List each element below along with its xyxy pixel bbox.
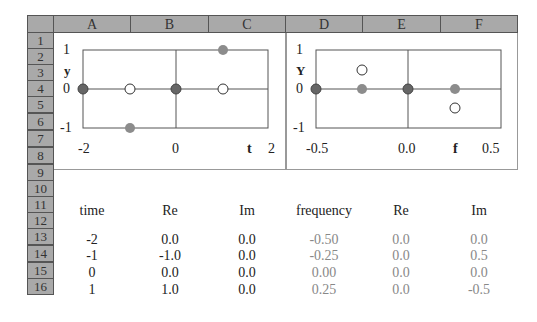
- column-header-d[interactable]: D: [285, 15, 363, 33]
- y-axis-label: Y: [296, 63, 305, 79]
- row-header-7[interactable]: 7: [27, 130, 54, 147]
- cell-f15[interactable]: 0.0: [440, 265, 518, 281]
- cell-b16[interactable]: 1.0: [131, 282, 209, 298]
- column-header-f[interactable]: F: [440, 15, 518, 33]
- cell-d13[interactable]: -0.50: [285, 232, 363, 248]
- cell-c13[interactable]: 0.0: [208, 232, 286, 248]
- column-header-c[interactable]: C: [208, 15, 286, 33]
- row-header-1[interactable]: 1: [27, 32, 54, 49]
- cell-c15[interactable]: 0.0: [208, 265, 286, 281]
- row-header-15[interactable]: 15: [27, 262, 54, 279]
- cell-f13[interactable]: 0.0: [440, 232, 518, 248]
- row-header-13[interactable]: 13: [27, 228, 54, 245]
- header-re[interactable]: Re: [131, 203, 209, 219]
- x-tick-max: 0.5: [482, 141, 500, 157]
- cell-d16[interactable]: 0.25: [285, 282, 363, 298]
- x-axis-label: t: [247, 141, 252, 157]
- y-axis-label: y: [64, 63, 71, 79]
- x-tick-min: -2: [78, 141, 90, 157]
- cell-c16[interactable]: 0.0: [208, 282, 286, 298]
- header-im[interactable]: Im: [440, 203, 518, 219]
- column-header-b[interactable]: B: [130, 15, 209, 33]
- x-tick-max: 2: [268, 141, 275, 157]
- y-tick-0: 0: [63, 81, 70, 97]
- time-domain-chart[interactable]: 1 y 0 -1 -2 0 t 2: [54, 33, 286, 170]
- y-tick-1: 1: [296, 42, 303, 58]
- row-header-6[interactable]: 6: [27, 113, 54, 130]
- row-header-14[interactable]: 14: [27, 245, 54, 262]
- row-header-16[interactable]: 16: [27, 278, 54, 295]
- cell-a14[interactable]: -1: [53, 248, 131, 264]
- row-header-12[interactable]: 12: [27, 212, 54, 229]
- x-tick-mid: 0: [172, 141, 179, 157]
- header-re[interactable]: Re: [362, 203, 440, 219]
- row-header-8[interactable]: 8: [27, 147, 54, 164]
- cell-e16[interactable]: 0.0: [362, 282, 440, 298]
- frequency-domain-chart[interactable]: 1 Y 0 -1 -0.5 0.0 f 0.5: [286, 33, 518, 170]
- column-header-e[interactable]: E: [362, 15, 441, 33]
- column-header-a[interactable]: A: [53, 15, 131, 33]
- cell-b15[interactable]: 0.0: [131, 265, 209, 281]
- cell-a13[interactable]: -2: [53, 232, 131, 248]
- cell-a16[interactable]: 1: [53, 282, 131, 298]
- cell-a15[interactable]: 0: [53, 265, 131, 281]
- row-header-3[interactable]: 3: [27, 64, 54, 81]
- row-header-4[interactable]: 4: [27, 80, 54, 97]
- y-tick-0: 0: [296, 81, 303, 97]
- header-im[interactable]: Im: [208, 203, 286, 219]
- x-tick-mid: 0.0: [398, 141, 416, 157]
- cell-e15[interactable]: 0.0: [362, 265, 440, 281]
- cell-f14[interactable]: 0.5: [440, 248, 518, 264]
- cell-f16[interactable]: -0.5: [440, 282, 518, 298]
- cell-e13[interactable]: 0.0: [362, 232, 440, 248]
- select-all-corner[interactable]: [27, 15, 54, 33]
- y-tick-minus-1: -1: [293, 120, 305, 136]
- cell-b13[interactable]: 0.0: [131, 232, 209, 248]
- row-header-5[interactable]: 5: [27, 96, 54, 113]
- y-tick-minus-1: -1: [60, 120, 72, 136]
- cell-b14[interactable]: -1.0: [131, 248, 209, 264]
- cell-c14[interactable]: 0.0: [208, 248, 286, 264]
- y-tick-1: 1: [63, 42, 70, 58]
- cell-d14[interactable]: -0.25: [285, 248, 363, 264]
- cell-d15[interactable]: 0.00: [285, 265, 363, 281]
- cell-e14[interactable]: 0.0: [362, 248, 440, 264]
- header-time[interactable]: time: [53, 203, 131, 219]
- header-frequency[interactable]: frequency: [285, 203, 363, 219]
- row-header-10[interactable]: 10: [27, 180, 54, 197]
- row-header-11[interactable]: 11: [27, 196, 54, 213]
- x-tick-min: -0.5: [306, 141, 328, 157]
- x-axis-label: f: [453, 141, 458, 157]
- row-header-9[interactable]: 9: [27, 164, 54, 181]
- row-header-2[interactable]: 2: [27, 48, 54, 65]
